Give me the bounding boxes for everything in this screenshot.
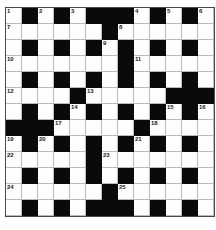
crossword-cell-open[interactable] — [6, 168, 22, 184]
crossword-cell-open[interactable] — [38, 24, 54, 40]
crossword-cell-open[interactable] — [134, 40, 150, 56]
crossword-cell-open[interactable] — [6, 72, 22, 88]
crossword-cell-open[interactable] — [166, 136, 182, 152]
crossword-cell-open[interactable]: 10 — [6, 56, 22, 72]
crossword-cell-open[interactable] — [70, 168, 86, 184]
crossword-cell-open[interactable] — [134, 24, 150, 40]
crossword-cell-open[interactable]: 12 — [6, 88, 22, 104]
crossword-cell-open[interactable] — [134, 168, 150, 184]
crossword-cell-open[interactable]: 3 — [70, 8, 86, 24]
crossword-cell-open[interactable] — [38, 200, 54, 216]
crossword-cell-open[interactable] — [70, 120, 86, 136]
crossword-cell-open[interactable]: 19 — [6, 136, 22, 152]
crossword-cell-open[interactable] — [22, 24, 38, 40]
crossword-cell-open[interactable] — [118, 120, 134, 136]
crossword-cell-open[interactable] — [70, 136, 86, 152]
crossword-cell-open[interactable] — [86, 56, 102, 72]
crossword-cell-open[interactable] — [166, 120, 182, 136]
crossword-cell-open[interactable] — [38, 152, 54, 168]
crossword-cell-open[interactable] — [134, 200, 150, 216]
crossword-cell-open[interactable] — [134, 184, 150, 200]
crossword-cell-open[interactable] — [102, 136, 118, 152]
crossword-cell-open[interactable] — [102, 120, 118, 136]
crossword-cell-open[interactable] — [38, 88, 54, 104]
crossword-cell-open[interactable] — [38, 184, 54, 200]
crossword-cell-open[interactable] — [70, 200, 86, 216]
crossword-cell-open[interactable] — [166, 56, 182, 72]
crossword-cell-open[interactable]: 22 — [6, 152, 22, 168]
crossword-cell-open[interactable] — [150, 184, 166, 200]
crossword-cell-open[interactable] — [102, 88, 118, 104]
crossword-cell-open[interactable] — [182, 120, 198, 136]
crossword-cell-open[interactable] — [198, 72, 214, 88]
crossword-cell-open[interactable]: 15 — [166, 104, 182, 120]
crossword-cell-open[interactable]: 4 — [134, 8, 150, 24]
crossword-cell-open[interactable] — [38, 40, 54, 56]
crossword-cell-open[interactable] — [166, 24, 182, 40]
crossword-cell-open[interactable] — [70, 184, 86, 200]
crossword-cell-open[interactable] — [150, 56, 166, 72]
crossword-cell-open[interactable] — [182, 184, 198, 200]
crossword-cell-open[interactable]: 17 — [54, 120, 70, 136]
crossword-cell-open[interactable] — [182, 152, 198, 168]
crossword-cell-open[interactable] — [102, 168, 118, 184]
crossword-cell-open[interactable] — [134, 152, 150, 168]
crossword-cell-open[interactable] — [198, 168, 214, 184]
crossword-cell-open[interactable]: 1 — [6, 8, 22, 24]
crossword-cell-open[interactable] — [22, 56, 38, 72]
crossword-cell-open[interactable] — [70, 56, 86, 72]
crossword-cell-open[interactable] — [166, 200, 182, 216]
crossword-cell-open[interactable] — [54, 184, 70, 200]
crossword-cell-open[interactable]: 23 — [102, 152, 118, 168]
crossword-cell-open[interactable] — [134, 104, 150, 120]
crossword-cell-open[interactable]: 20 — [38, 136, 54, 152]
crossword-cell-open[interactable]: 14 — [70, 104, 86, 120]
crossword-cell-open[interactable]: 9 — [102, 40, 118, 56]
crossword-cell-open[interactable] — [54, 56, 70, 72]
crossword-cell-open[interactable]: 18 — [150, 120, 166, 136]
crossword-cell-open[interactable] — [6, 104, 22, 120]
crossword-cell-open[interactable] — [198, 184, 214, 200]
crossword-cell-open[interactable] — [166, 168, 182, 184]
crossword-cell-open[interactable]: 6 — [198, 8, 214, 24]
crossword-cell-open[interactable]: 11 — [134, 56, 150, 72]
crossword-cell-open[interactable]: 7 — [6, 24, 22, 40]
crossword-cell-open[interactable] — [54, 152, 70, 168]
crossword-cell-open[interactable] — [118, 88, 134, 104]
crossword-cell-open[interactable] — [38, 104, 54, 120]
crossword-cell-open[interactable] — [102, 72, 118, 88]
crossword-cell-open[interactable] — [22, 88, 38, 104]
crossword-cell-open[interactable] — [70, 24, 86, 40]
crossword-cell-open[interactable]: 21 — [134, 136, 150, 152]
crossword-cell-open[interactable] — [22, 184, 38, 200]
crossword-cell-open[interactable] — [198, 152, 214, 168]
crossword-cell-open[interactable] — [134, 72, 150, 88]
crossword-cell-open[interactable] — [166, 184, 182, 200]
crossword-cell-open[interactable] — [6, 40, 22, 56]
crossword-cell-open[interactable] — [150, 88, 166, 104]
crossword-cell-open[interactable]: 5 — [166, 8, 182, 24]
crossword-cell-open[interactable] — [54, 88, 70, 104]
crossword-cell-open[interactable] — [38, 168, 54, 184]
crossword-cell-open[interactable]: 25 — [118, 184, 134, 200]
crossword-cell-open[interactable] — [102, 56, 118, 72]
crossword-cell-open[interactable] — [86, 184, 102, 200]
crossword-cell-open[interactable]: 16 — [198, 104, 214, 120]
crossword-cell-open[interactable] — [6, 200, 22, 216]
crossword-cell-open[interactable] — [86, 120, 102, 136]
crossword-cell-open[interactable] — [198, 24, 214, 40]
crossword-cell-open[interactable] — [70, 152, 86, 168]
crossword-cell-open[interactable] — [150, 152, 166, 168]
crossword-cell-open[interactable] — [198, 200, 214, 216]
crossword-cell-open[interactable] — [166, 40, 182, 56]
crossword-cell-open[interactable] — [198, 136, 214, 152]
crossword-cell-open[interactable] — [70, 72, 86, 88]
crossword-cell-open[interactable] — [22, 152, 38, 168]
crossword-cell-open[interactable] — [166, 152, 182, 168]
crossword-cell-open[interactable] — [86, 24, 102, 40]
crossword-cell-open[interactable] — [150, 24, 166, 40]
crossword-cell-open[interactable] — [102, 104, 118, 120]
crossword-cell-open[interactable] — [182, 56, 198, 72]
crossword-cell-open[interactable]: 24 — [6, 184, 22, 200]
crossword-cell-open[interactable] — [198, 120, 214, 136]
